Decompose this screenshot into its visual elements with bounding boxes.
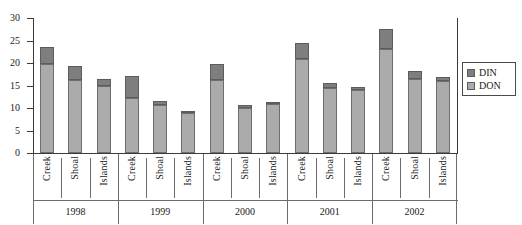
category-separator	[231, 158, 232, 198]
group-separator	[203, 154, 204, 200]
bar-segment-din	[68, 66, 82, 80]
bar-segment-din	[210, 64, 224, 80]
category-label-creek: Creek	[297, 156, 307, 181]
bar-2000-shoal	[238, 105, 252, 153]
category-separator	[174, 158, 175, 198]
category-cell: Creek	[287, 154, 315, 200]
bar-2001-islands	[351, 87, 365, 153]
bar-2001-shoal	[323, 83, 337, 153]
category-cell: Islands	[259, 154, 287, 200]
category-label-islands: Islands	[268, 156, 278, 186]
bar-segment-don	[266, 104, 280, 153]
bar-segment-don	[181, 113, 195, 153]
band-border	[33, 154, 34, 200]
legend-swatch-don	[467, 82, 475, 90]
bar-segment-din	[351, 87, 365, 91]
bar-segment-don	[40, 64, 54, 153]
year-label-2002: 2002	[405, 207, 425, 217]
legend-label-don: DON	[479, 81, 501, 91]
y-axis-tick-label: 10	[10, 103, 20, 113]
category-separator	[146, 158, 147, 198]
bar-segment-din	[379, 29, 393, 48]
category-cell: Islands	[90, 154, 118, 200]
stacked-bar-chart: 051015202530 CreekShoalIslandsCreekShoal…	[0, 0, 522, 225]
band-border	[456, 200, 457, 224]
category-separator	[400, 158, 401, 198]
year-cell: 1999	[118, 200, 203, 224]
bar-segment-don	[210, 80, 224, 153]
bar-segment-din	[153, 101, 167, 105]
legend-item-don: DON	[467, 79, 511, 92]
category-cell: Creek	[203, 154, 231, 200]
bar-2001-creek	[295, 43, 309, 153]
category-label-shoal: Shoal	[155, 156, 165, 180]
bar-segment-don	[97, 86, 111, 154]
bar-1999-creek	[125, 76, 139, 153]
category-cell: Islands	[174, 154, 202, 200]
year-label-2000: 2000	[235, 207, 255, 217]
bar-segment-don	[238, 108, 252, 153]
category-label-creek: Creek	[127, 156, 137, 181]
bar-segment-din	[97, 79, 111, 86]
year-label-1998: 1998	[65, 207, 85, 217]
category-separator	[316, 158, 317, 198]
y-axis-tick-label: 20	[10, 58, 20, 68]
legend-item-din: DIN	[467, 66, 511, 79]
category-cell: Creek	[33, 154, 61, 200]
category-axis-band: CreekShoalIslandsCreekShoalIslandsCreekS…	[33, 154, 458, 200]
category-label-shoal: Shoal	[410, 156, 420, 180]
bar-segment-don	[295, 59, 309, 154]
bar-2000-creek	[210, 64, 224, 153]
bar-segment-din	[266, 102, 280, 105]
bar-segment-don	[436, 81, 450, 153]
category-cell: Islands	[344, 154, 372, 200]
bar-segment-din	[323, 83, 337, 88]
bar-2002-creek	[379, 29, 393, 153]
bar-segment-don	[379, 49, 393, 153]
category-label-creek: Creek	[42, 156, 52, 181]
category-cell: Islands	[429, 154, 457, 200]
category-cell: Shoal	[61, 154, 89, 200]
bar-segment-don	[408, 79, 422, 153]
bars-layer	[33, 18, 457, 153]
bar-segment-din	[181, 111, 195, 114]
y-axis-tick-label: 25	[10, 36, 20, 46]
legend-swatch-din	[467, 69, 475, 77]
category-label-islands: Islands	[353, 156, 363, 186]
plot-right-border	[457, 18, 458, 154]
category-separator	[61, 158, 62, 198]
y-axis-tick-label: 5	[15, 126, 20, 136]
bar-segment-don	[351, 90, 365, 153]
group-separator	[118, 154, 119, 200]
bar-segment-din	[125, 76, 139, 98]
band-border	[33, 200, 34, 224]
category-separator	[259, 158, 260, 198]
group-separator	[372, 154, 373, 200]
year-cell: 2001	[287, 200, 372, 224]
category-separator	[344, 158, 345, 198]
category-cell: Shoal	[146, 154, 174, 200]
band-border	[456, 154, 457, 200]
category-cell: Shoal	[400, 154, 428, 200]
bar-segment-don	[323, 88, 337, 153]
y-axis-tick-label: 30	[10, 13, 20, 23]
bar-1998-creek	[40, 47, 54, 153]
bar-2002-islands	[436, 77, 450, 154]
year-label-1999: 1999	[150, 207, 170, 217]
bar-segment-don	[125, 98, 139, 153]
bar-1999-islands	[181, 111, 195, 153]
year-cell: 2000	[203, 200, 288, 224]
bar-segment-din	[295, 43, 309, 58]
bar-segment-din	[408, 71, 422, 79]
category-cell: Shoal	[316, 154, 344, 200]
chart-legend: DIN DON	[462, 62, 516, 96]
category-label-shoal: Shoal	[240, 156, 250, 180]
category-separator	[429, 158, 430, 198]
bar-segment-din	[238, 105, 252, 108]
category-label-creek: Creek	[212, 156, 222, 181]
category-label-islands: Islands	[183, 156, 193, 186]
bar-1999-shoal	[153, 101, 167, 153]
category-label-creek: Creek	[381, 156, 391, 181]
year-cell: 2002	[372, 200, 457, 224]
year-label-2001: 2001	[320, 207, 340, 217]
